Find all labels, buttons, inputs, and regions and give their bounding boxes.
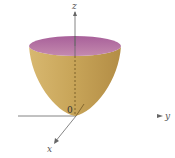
- z-axis-label: z: [71, 1, 77, 11]
- x-axis: [55, 116, 76, 142]
- origin-label: 0: [67, 105, 73, 115]
- y-axis-arrow-icon: [157, 114, 163, 118]
- paraboloid-diagram: z y x 0: [0, 0, 175, 158]
- x-axis-label: x: [47, 144, 52, 154]
- z-axis-arrow-icon: [73, 11, 77, 16]
- x-axis-arrow-icon: [54, 138, 59, 144]
- y-axis-label: y: [164, 111, 171, 121]
